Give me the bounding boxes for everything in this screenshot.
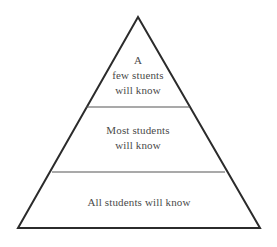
pyramid-shape xyxy=(0,0,277,247)
pyramid-outline xyxy=(18,17,260,228)
pyramid-diagram: A few stuents will know Most students wi… xyxy=(0,0,277,247)
